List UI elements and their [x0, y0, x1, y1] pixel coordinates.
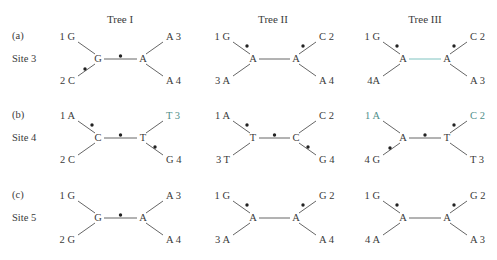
branch-line: [146, 143, 163, 155]
column-header-tree: Tree III: [408, 13, 442, 25]
branch-line: [78, 143, 95, 155]
internal-node-left: A: [399, 132, 407, 144]
substitution-dot-icon: [395, 203, 398, 206]
substitution-dot-icon: [119, 54, 122, 57]
internal-node-left: A: [399, 53, 407, 65]
branch-line: [233, 121, 250, 133]
branch-line: [299, 143, 316, 155]
branch-line: [78, 64, 95, 76]
substitution-dot-icon: [301, 203, 304, 206]
internal-node-left: A: [399, 212, 407, 224]
branch-line: [450, 143, 467, 155]
substitution-dot-icon: [306, 145, 309, 148]
branch-line: [383, 42, 400, 54]
leaf-label-top-left: 1 A: [365, 110, 380, 122]
leaf-label-bottom-left: 2 G: [60, 234, 75, 246]
substitution-dot-icon: [423, 133, 426, 136]
leaf-label-bottom-right: A 4: [319, 234, 334, 246]
substitution-dot-icon: [245, 203, 248, 206]
branch-line: [146, 64, 163, 76]
internal-node-left: A: [249, 53, 257, 65]
branch-line: [233, 201, 250, 213]
leaf-label-bottom-right: A 3: [470, 75, 485, 87]
branch-line: [383, 201, 400, 213]
substitution-dot-icon: [245, 44, 248, 47]
substitution-dot-icon: [388, 146, 391, 149]
leaf-label-top-left: 1 G: [365, 31, 380, 43]
leaf-label-top-right: A 3: [166, 190, 181, 202]
internal-node-right: A: [292, 53, 300, 65]
branch-line: [450, 64, 467, 76]
leaf-label-bottom-right: A 4: [319, 75, 334, 87]
branch-line: [450, 223, 467, 235]
substitution-dot-icon: [452, 123, 455, 126]
branch-line: [146, 201, 163, 213]
branch-line: [78, 121, 95, 133]
branch-line: [299, 64, 316, 76]
leaf-label-bottom-right: A 4: [166, 75, 181, 87]
substitution-dot-icon: [395, 44, 398, 47]
branch-line: [383, 223, 400, 235]
leaf-label-top-right: G 2: [470, 190, 485, 202]
substitution-dot-icon: [273, 133, 276, 136]
branch-line: [383, 143, 400, 155]
internal-node-right: A: [139, 53, 147, 65]
substitution-dot-icon: [452, 203, 455, 206]
internal-node-right: T: [444, 132, 450, 144]
row-letter-label: (c): [12, 189, 24, 201]
substitution-dot-icon: [301, 44, 304, 47]
leaf-label-bottom-right: G 4: [319, 154, 334, 166]
branch-line: [233, 42, 250, 54]
substitution-dot-icon: [153, 145, 156, 148]
column-header-tree: Tree I: [107, 13, 133, 25]
substitution-dot-icon: [119, 213, 122, 216]
branch-line: [146, 121, 163, 133]
leaf-label-bottom-right: A 4: [166, 234, 181, 246]
internal-node-left: A: [249, 212, 257, 224]
substitution-dot-icon: [90, 123, 93, 126]
branch-line: [450, 42, 467, 54]
row-site-label: Site 4: [12, 132, 36, 144]
leaf-label-bottom-right: G 4: [166, 154, 181, 166]
leaf-label-top-right: C 2: [319, 31, 334, 43]
branch-line: [233, 223, 250, 235]
branch-line: [299, 223, 316, 235]
branch-line: [383, 121, 400, 133]
leaf-label-top-right: C 2: [470, 31, 485, 43]
branch-line: [146, 42, 163, 54]
leaf-label-bottom-left: 2 C: [60, 75, 75, 87]
row-site-label: Site 5: [12, 212, 36, 224]
row-letter-label: (a): [12, 30, 24, 42]
leaf-label-bottom-left: 4A: [367, 75, 380, 87]
internal-node-right: A: [292, 212, 300, 224]
leaf-label-top-left: 1 G: [215, 190, 230, 202]
leaf-label-top-right: A 3: [166, 31, 181, 43]
row-letter-label: (b): [12, 109, 24, 121]
branch-line: [233, 64, 250, 76]
phylogeny-figure: Tree ITree IITree III(a)Site 3(b)Site 4(…: [0, 0, 497, 260]
internal-node-left: C: [94, 132, 101, 144]
leaf-label-top-left: 1 A: [215, 110, 230, 122]
leaf-label-top-left: 1 G: [60, 190, 75, 202]
branch-line: [450, 201, 467, 213]
leaf-label-bottom-left: 3 A: [215, 234, 230, 246]
leaf-label-bottom-right: T 3: [470, 154, 484, 166]
column-header-tree: Tree II: [258, 13, 288, 25]
internal-node-right: A: [443, 53, 451, 65]
branch-line: [299, 121, 316, 133]
leaf-label-bottom-right: A 3: [470, 234, 485, 246]
substitution-dot-icon: [245, 123, 248, 126]
branch-line: [78, 223, 95, 235]
branch-line: [383, 64, 400, 76]
leaf-label-top-right: T 3: [166, 110, 180, 122]
leaf-label-top-left: 1 G: [60, 31, 75, 43]
leaf-label-top-right: C 2: [319, 110, 334, 122]
leaf-label-top-left: 1 G: [215, 31, 230, 43]
leaf-label-bottom-left: 2 C: [60, 154, 75, 166]
internal-node-right: T: [140, 132, 146, 144]
leaf-label-top-right: C 2: [470, 110, 485, 122]
branch-line: [450, 121, 467, 133]
branch-line: [299, 42, 316, 54]
internal-node-right: C: [292, 132, 299, 144]
branch-line: [146, 223, 163, 235]
